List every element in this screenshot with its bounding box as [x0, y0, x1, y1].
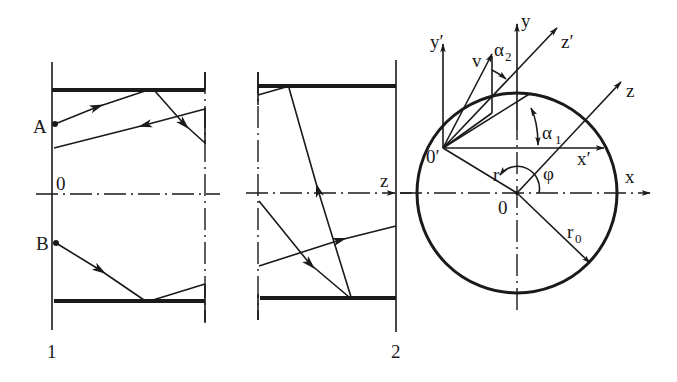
- alpha1-arc: [531, 108, 538, 145]
- label-z-axis: z: [380, 170, 388, 191]
- label-z-prime: z′: [561, 31, 574, 52]
- label-phi: φ: [543, 163, 554, 184]
- label-x: x: [625, 166, 635, 187]
- label-alpha2: α: [494, 39, 504, 60]
- label-radius-r: r: [493, 164, 500, 185]
- label-origin-left: 0: [56, 173, 66, 194]
- ray-trajectory-diagram: A B 0 1 z 2: [0, 0, 677, 382]
- label-radius-r0-sub: 0: [575, 231, 582, 246]
- label-point-a: A: [33, 116, 47, 137]
- z-axis-oblique: [517, 82, 621, 193]
- cross-section-panel: y′ y z′ z x′ x v α 2 α 1 0′ 0 r r 0 φ: [400, 10, 650, 310]
- ray-a-up: [55, 90, 148, 124]
- label-section-2: 2: [391, 341, 401, 362]
- ray-rising: [259, 226, 396, 266]
- label-z: z: [626, 80, 634, 101]
- middle-panel: z 2: [246, 60, 412, 362]
- ray-entry-top: [258, 87, 286, 95]
- label-origin-prime: 0′: [426, 146, 440, 167]
- label-point-b: B: [36, 233, 49, 254]
- label-velocity: v: [472, 50, 482, 71]
- label-alpha1: α: [542, 122, 552, 143]
- label-alpha2-sub: 2: [505, 49, 512, 64]
- label-radius-r0: r: [567, 221, 574, 242]
- label-origin: 0: [498, 197, 508, 218]
- label-x-prime: x′: [577, 148, 591, 169]
- alpha2-arc: [492, 70, 506, 79]
- left-panel: A B 0 1: [33, 62, 220, 362]
- ray-b-reflect: [153, 284, 205, 300]
- radius-r0: [517, 193, 590, 263]
- ray-b-down: [56, 243, 144, 300]
- label-section-1: 1: [47, 341, 57, 362]
- label-y: y: [521, 10, 531, 31]
- label-alpha1-sub: 1: [555, 132, 562, 147]
- label-y-prime: y′: [430, 31, 444, 52]
- velocity-vector: [443, 54, 492, 148]
- origin-dot: [515, 191, 519, 195]
